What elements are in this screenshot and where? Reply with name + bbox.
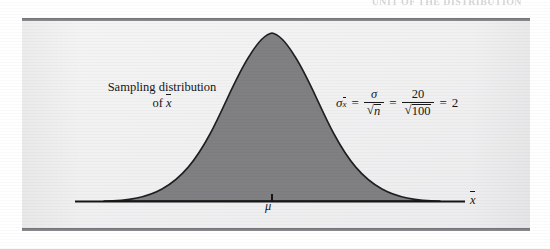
caption-line-1: Sampling distribution xyxy=(108,80,217,94)
formula-denominator-root-100: √100 xyxy=(402,102,435,118)
formula-equals-1: = xyxy=(351,95,358,111)
formula-radicand-100: 100 xyxy=(412,104,432,118)
normal-curve-chart xyxy=(0,0,550,249)
formula-result: 2 xyxy=(452,95,459,111)
sqrt-icon-2: √ xyxy=(405,103,412,116)
formula-fraction-sigma-over-root-n: σ √n xyxy=(364,88,384,118)
formula-numerator-sigma: σ xyxy=(368,88,380,101)
formula-equals-3: = xyxy=(439,95,446,111)
sqrt-100-group: √100 xyxy=(405,103,432,118)
chart-caption: Sampling distribution of x xyxy=(86,80,238,111)
sqrt-n-group: √n xyxy=(367,103,381,118)
caption-xbar-symbol: x xyxy=(166,95,172,111)
formula-denominator-root-n: √n xyxy=(364,102,384,118)
caption-line-2-prefix: of xyxy=(152,96,166,110)
formula-equals-2: = xyxy=(389,95,396,111)
xbar-axis-label: x xyxy=(470,192,476,208)
figure-root: UNIT OF THE DISTRIBUTION Sampling distri… xyxy=(0,0,550,249)
xbar-axis-symbol: x xyxy=(470,192,476,208)
formula-fraction-20-over-root-100: 20 √100 xyxy=(402,88,435,118)
formula-numerator-20: 20 xyxy=(409,88,428,101)
formula-radicand-n: n xyxy=(374,104,381,118)
formula-sigma-subscript: x xyxy=(342,98,346,109)
sqrt-icon: √ xyxy=(367,103,374,116)
standard-error-formula: σx = σ √n = 20 √100 = 2 xyxy=(336,88,458,118)
mu-axis-label: μ xyxy=(265,199,271,214)
